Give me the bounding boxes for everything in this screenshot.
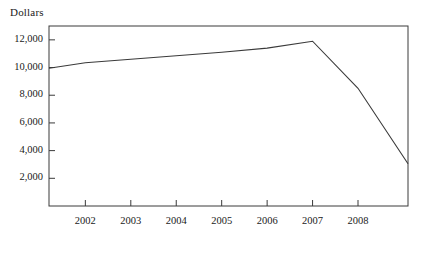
y-axis-tick-label: 12,000 — [0, 33, 43, 44]
x-axis-tick-label: 2008 — [328, 215, 388, 226]
chart-figure: Dollars 2,0004,0006,0008,00010,00012,000… — [0, 0, 423, 257]
y-axis-tick-label: 8,000 — [0, 88, 43, 99]
y-axis-tick-label: 10,000 — [0, 61, 43, 72]
y-axis-tick-label: 2,000 — [0, 171, 43, 182]
plot-frame — [49, 26, 408, 206]
y-axis-tick-label: 4,000 — [0, 144, 43, 155]
y-axis-tick-label: 6,000 — [0, 116, 43, 127]
